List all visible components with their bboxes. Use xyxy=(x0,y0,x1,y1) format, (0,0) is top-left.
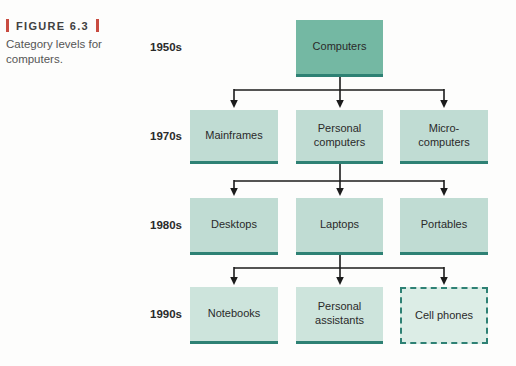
node-computers: Computers xyxy=(296,20,383,77)
figure-caption: FIGURE 6.3 Category levels for computers… xyxy=(6,19,134,67)
caption-right-bar xyxy=(96,19,99,32)
figure-caption-header: FIGURE 6.3 xyxy=(6,19,134,32)
node-laptops: Laptops xyxy=(296,198,383,255)
era-label-1950s: 1950s xyxy=(150,41,190,53)
node-mainframes-label: Mainframes xyxy=(205,129,262,143)
era-label-1990s: 1990s xyxy=(150,308,190,320)
node-personal-computers: Personal computers xyxy=(296,110,383,164)
node-mainframes: Mainframes xyxy=(190,110,278,164)
node-micro-computers-label: Micro-computers xyxy=(405,122,483,150)
figure-page: FIGURE 6.3 Category levels for computers… xyxy=(0,0,516,366)
node-portables-label: Portables xyxy=(421,218,467,232)
node-cell-phones: Cell phones xyxy=(400,287,488,344)
figure-number-label: FIGURE 6.3 xyxy=(16,20,89,32)
node-personal-assistants: Personal assistants xyxy=(296,287,383,344)
node-laptops-label: Laptops xyxy=(320,218,359,232)
node-desktops-label: Desktops xyxy=(211,218,257,232)
node-personal-assistants-label: Personal assistants xyxy=(301,300,378,328)
figure-caption-text: Category levels for computers. xyxy=(6,37,124,67)
node-personal-computers-label: Personal computers xyxy=(301,122,378,150)
node-cell-phones-label: Cell phones xyxy=(415,309,473,323)
node-desktops: Desktops xyxy=(190,198,278,255)
caption-left-bar xyxy=(6,19,9,32)
node-micro-computers: Micro-computers xyxy=(400,110,488,164)
node-notebooks: Notebooks xyxy=(190,287,278,344)
node-computers-label: Computers xyxy=(313,40,367,54)
node-portables: Portables xyxy=(400,198,488,255)
era-label-1980s: 1980s xyxy=(150,219,190,231)
node-notebooks-label: Notebooks xyxy=(208,307,261,321)
era-label-1970s: 1970s xyxy=(150,130,190,142)
